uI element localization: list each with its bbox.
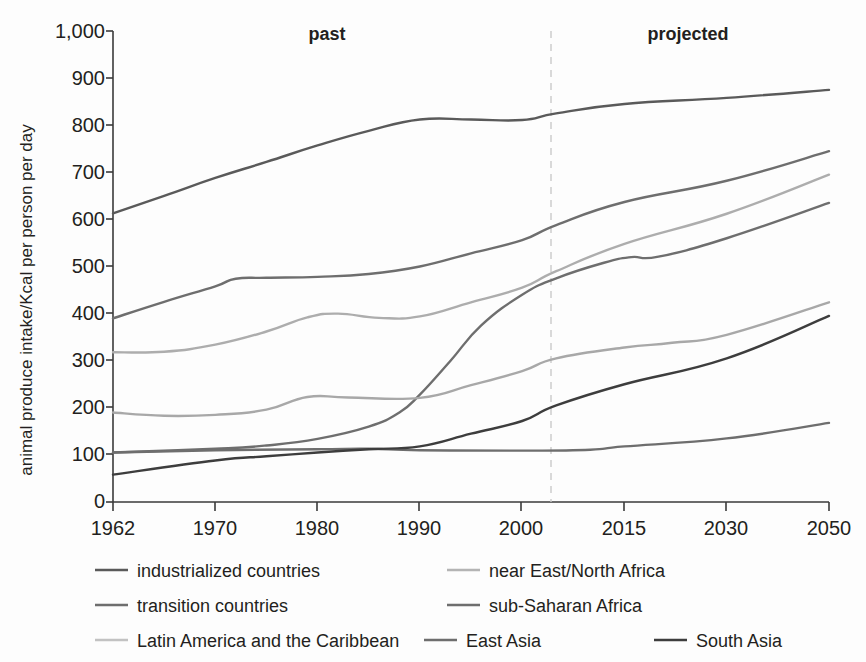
y-tick-label: 1,000 [55,20,105,42]
y-tick-label: 0 [94,490,105,512]
series-group [113,90,829,475]
legend-label-industrialized: industrialized countries [137,561,320,581]
x-tick-label: 1962 [91,517,136,539]
x-tick-label: 1990 [397,517,442,539]
x-tick-label: 2015 [602,517,647,539]
projected-label: projected [647,24,728,44]
y-tick-label: 200 [72,396,105,418]
y-tick-label: 500 [72,255,105,277]
chart-figure: animal produce intake/Kcal per person pe… [0,0,866,662]
legend-label-latin-america: Latin America and the Caribbean [137,631,399,651]
past-label: past [308,24,345,44]
y-axis-title: animal produce intake/Kcal per person pe… [17,124,36,476]
y-tick-label: 100 [72,443,105,465]
legend-label-transition: transition countries [137,596,288,616]
y-tick-label: 600 [72,208,105,230]
y-tick-marks [106,31,113,502]
y-tick-label: 400 [72,302,105,324]
x-tick-label: 2050 [807,517,852,539]
legend-label-sub-saharan-africa: sub-Saharan Africa [489,596,643,616]
x-tick-label: 2000 [499,517,544,539]
line-chart: animal produce intake/Kcal per person pe… [0,0,866,662]
y-tick-label: 800 [72,114,105,136]
y-tick-label: 300 [72,349,105,371]
chart-legend: industrialized countries near East/North… [95,561,783,651]
x-tick-label: 1970 [193,517,238,539]
series-line-industrialized-countries [113,90,829,213]
legend-label-east-asia: East Asia [466,631,542,651]
series-line-latin-america-and-the-caribbean [113,175,829,353]
legend-label-south-asia: South Asia [696,631,783,651]
y-tick-label: 900 [72,67,105,89]
y-tick-label: 700 [72,161,105,183]
legend-label-near-east-north-africa: near East/North Africa [489,561,666,581]
x-tick-label: 2030 [704,517,749,539]
x-tick-marks [113,502,829,511]
x-tick-label: 1980 [295,517,340,539]
